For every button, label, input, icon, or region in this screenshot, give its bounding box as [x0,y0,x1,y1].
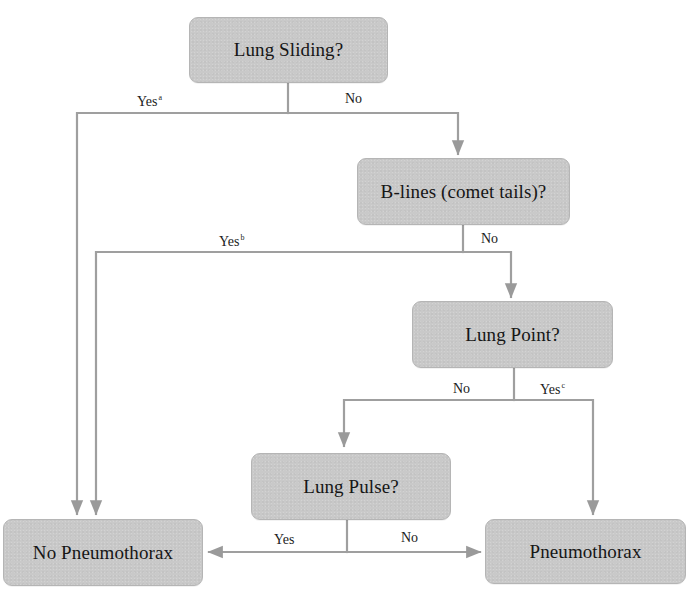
edge-label-sliding-no: No [345,92,362,106]
node-no-pneumothorax-label: No Pneumothorax [33,542,173,564]
node-pneumothorax-label: Pneumothorax [529,541,641,563]
edge-blines-no [463,252,511,297]
edge-point-no [344,400,514,446]
node-lung-pulse-label: Lung Pulse? [303,476,399,498]
node-lung-point: Lung Point? [412,301,613,368]
node-no-pneumothorax: No Pneumothorax [3,519,203,586]
edge-label-point-no: No [453,382,470,396]
flowchart-diagram: Lung Sliding? B-lines (comet tails)? Lun… [0,0,689,599]
node-b-lines-label: B-lines (comet tails)? [381,181,547,203]
edge-label-blines-no: No [481,232,498,246]
node-lung-pulse: Lung Pulse? [251,453,451,520]
node-b-lines: B-lines (comet tails)? [357,158,570,225]
node-lung-sliding: Lung Sliding? [189,17,388,83]
footnote-a: a [158,93,162,102]
edge-label-point-yes: Yesc [540,382,565,397]
edge-point-yes [514,400,593,514]
footnote-c: c [561,381,565,390]
node-lung-sliding-label: Lung Sliding? [234,39,344,61]
edge-label-pulse-yes: Yes [274,533,294,547]
edge-label-pulse-no: No [401,531,418,545]
footnote-b: b [240,233,244,242]
node-lung-point-label: Lung Point? [465,324,560,346]
edge-label-sliding-yes: Yesa [137,94,162,109]
edge-label-blines-yes: Yesb [219,234,244,249]
node-pneumothorax: Pneumothorax [485,519,686,584]
edge-sliding-no [288,113,458,154]
